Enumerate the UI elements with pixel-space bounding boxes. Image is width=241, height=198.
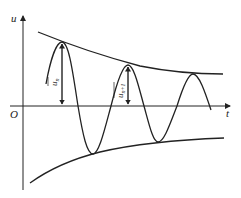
- upper-envelope: [38, 32, 223, 74]
- lower-envelope: [30, 138, 224, 183]
- oscillation-curve: [46, 42, 211, 154]
- amplitude-n-label: un: [48, 77, 60, 86]
- t-axis-label: t: [226, 107, 230, 119]
- damped-oscillation-diagram: u t O un un+1: [0, 0, 241, 198]
- u-axis-label: u: [11, 12, 17, 24]
- svg-text:un: un: [49, 79, 60, 87]
- origin-label: O: [10, 108, 18, 120]
